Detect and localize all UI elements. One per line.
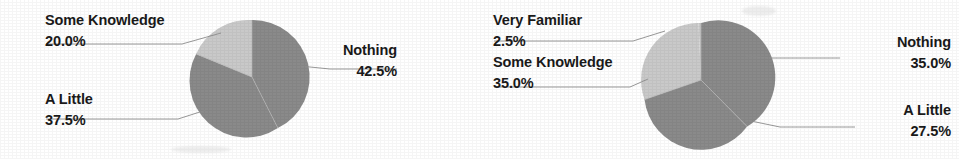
label-some-knowledge-name: Some Knowledge bbox=[493, 52, 612, 73]
label-a-little-name: A Little bbox=[45, 89, 93, 110]
label-very-familiar: Very Familiar 2.5% bbox=[493, 10, 582, 51]
label-some-knowledge-value: 35.0% bbox=[493, 73, 612, 94]
label-a-little: A Little 27.5% bbox=[903, 100, 951, 141]
label-nothing-name: Nothing bbox=[343, 40, 397, 61]
label-some-knowledge-name: Some Knowledge bbox=[45, 10, 164, 31]
label-some-knowledge: Some Knowledge 35.0% bbox=[493, 52, 612, 93]
label-nothing-value: 42.5% bbox=[343, 61, 397, 82]
label-nothing: Nothing 35.0% bbox=[897, 32, 951, 73]
scan-artifact bbox=[171, 146, 231, 153]
label-a-little-name: A Little bbox=[903, 100, 951, 121]
label-some-knowledge: Some Knowledge 20.0% bbox=[45, 10, 164, 51]
label-very-familiar-value: 2.5% bbox=[493, 31, 582, 52]
label-a-little: A Little 37.5% bbox=[45, 89, 93, 130]
scan-artifact bbox=[742, 6, 776, 16]
pie-chart-figure: Some Knowledge 20.0% A Little 37.5% Noth… bbox=[0, 0, 959, 159]
label-a-little-value: 27.5% bbox=[903, 121, 951, 142]
pie-chart-right: Very Familiar 2.5% Some Knowledge 35.0% … bbox=[480, 0, 959, 159]
pie-chart-left: Some Knowledge 20.0% A Little 37.5% Noth… bbox=[0, 0, 480, 159]
label-nothing-value: 35.0% bbox=[897, 53, 951, 74]
label-nothing: Nothing 42.5% bbox=[343, 40, 397, 81]
label-some-knowledge-value: 20.0% bbox=[45, 31, 164, 52]
label-nothing-name: Nothing bbox=[897, 32, 951, 53]
label-a-little-value: 37.5% bbox=[45, 110, 93, 131]
leader-line-a-little bbox=[746, 120, 855, 127]
label-very-familiar-name: Very Familiar bbox=[493, 10, 582, 31]
